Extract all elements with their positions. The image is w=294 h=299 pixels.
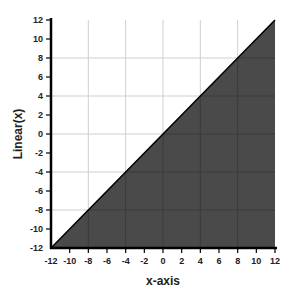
svg-text:2: 2 (38, 110, 43, 120)
svg-text:0: 0 (38, 129, 43, 139)
svg-text:-6: -6 (103, 256, 111, 266)
svg-text:10: 10 (33, 34, 43, 44)
x-axis-label: x-axis (146, 274, 180, 288)
y-axis-ticks: -12-10-8-6-4-2024681012 (30, 15, 51, 253)
svg-text:10: 10 (251, 256, 261, 266)
svg-text:6: 6 (216, 256, 221, 266)
svg-text:-2: -2 (35, 148, 43, 158)
x-axis-ticks: -12-10-8-6-4-2024681012 (44, 248, 280, 266)
svg-text:8: 8 (38, 53, 43, 63)
svg-text:-6: -6 (35, 186, 43, 196)
svg-text:8: 8 (235, 256, 240, 266)
svg-text:-12: -12 (30, 243, 43, 253)
y-axis-label: Linear(x) (11, 109, 25, 160)
svg-text:-2: -2 (140, 256, 148, 266)
svg-text:-10: -10 (63, 256, 76, 266)
svg-text:-8: -8 (35, 205, 43, 215)
svg-text:2: 2 (179, 256, 184, 266)
svg-text:-4: -4 (35, 167, 43, 177)
svg-text:0: 0 (160, 256, 165, 266)
svg-text:12: 12 (33, 15, 43, 25)
chart: -12-10-8-6-4-2024681012 -12-10-8-6-4-202… (0, 0, 294, 299)
svg-text:4: 4 (198, 256, 203, 266)
svg-text:4: 4 (38, 91, 43, 101)
svg-text:-12: -12 (44, 256, 57, 266)
svg-text:6: 6 (38, 72, 43, 82)
svg-text:12: 12 (270, 256, 280, 266)
svg-text:-8: -8 (84, 256, 92, 266)
svg-text:-4: -4 (122, 256, 130, 266)
svg-text:-10: -10 (30, 224, 43, 234)
